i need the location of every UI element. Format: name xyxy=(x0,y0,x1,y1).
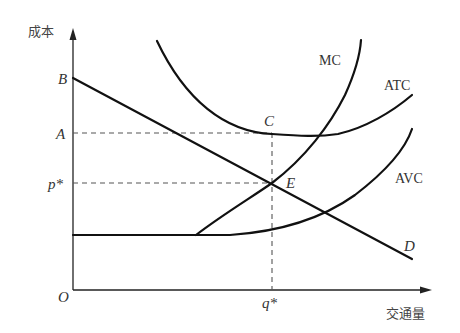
labels: 成本 交通量 O B A p* q* C E MC ATC AVC D xyxy=(28,24,425,321)
point-c-label: C xyxy=(264,113,275,129)
y-tick-b: B xyxy=(58,71,67,87)
avc-curve xyxy=(73,129,412,235)
d-label: D xyxy=(403,238,415,254)
point-e-label: E xyxy=(285,175,295,191)
atc-label: ATC xyxy=(384,78,410,93)
x-axis-arrow-icon xyxy=(420,287,432,294)
y-axis-arrow-icon xyxy=(70,28,77,40)
curves xyxy=(73,40,412,259)
origin-label: O xyxy=(58,289,69,305)
x-tick-q-star: q* xyxy=(262,295,278,311)
demand-curve xyxy=(73,78,412,259)
y-tick-p-star: p* xyxy=(47,176,64,192)
mc-label: MC xyxy=(319,53,341,68)
atc-curve xyxy=(157,41,412,136)
y-axis-label: 成本 xyxy=(28,24,54,39)
avc-label: AVC xyxy=(395,171,423,186)
guide-lines xyxy=(73,133,272,290)
cost-diagram: 成本 交通量 O B A p* q* C E MC ATC AVC D xyxy=(0,0,460,333)
axes xyxy=(70,28,433,294)
y-tick-a: A xyxy=(55,126,66,142)
x-axis-label: 交通量 xyxy=(386,306,425,321)
